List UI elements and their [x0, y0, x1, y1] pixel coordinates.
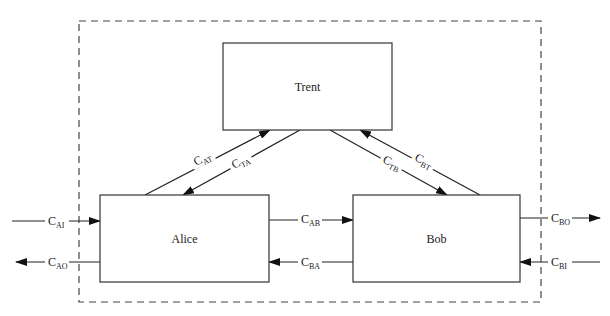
channel-c_ab: CAB	[269, 212, 353, 228]
channel-diagram: CATCTACTBCBTCABCBACAICAOCBOCBI TrentAlic…	[0, 0, 610, 316]
channel-c_bt: CBT	[360, 130, 480, 195]
channel-label-c_ba: CBA	[298, 255, 322, 271]
channel-c_ai: CAI	[12, 214, 100, 230]
channel-label-c_ta: CTA	[226, 150, 255, 175]
channel-label-c_bi: CBI	[548, 255, 572, 271]
channel-label-c_ai: CAI	[45, 214, 69, 230]
node-label-alice: Alice	[172, 232, 198, 246]
channel-c_ao: CAO	[16, 255, 100, 271]
channel-label-c_ab: CAB	[298, 212, 322, 228]
channel-label-c_bo: CBO	[548, 211, 572, 227]
channel-c_ba: CBA	[269, 255, 353, 271]
node-label-bob: Bob	[426, 232, 446, 246]
channel-label-c_ao: CAO	[45, 255, 69, 271]
node-trent: Trent	[223, 43, 392, 130]
nodes-layer: TrentAliceBob	[100, 43, 520, 282]
channel-label-c_at: CAT	[188, 147, 217, 172]
channel-label-c_tb: CTB	[377, 151, 406, 176]
channel-c_bi: CBI	[520, 255, 600, 271]
node-alice: Alice	[100, 195, 269, 282]
channel-c_bo: CBO	[520, 211, 600, 227]
node-bob: Bob	[353, 195, 520, 282]
node-label-trent: Trent	[295, 80, 321, 94]
